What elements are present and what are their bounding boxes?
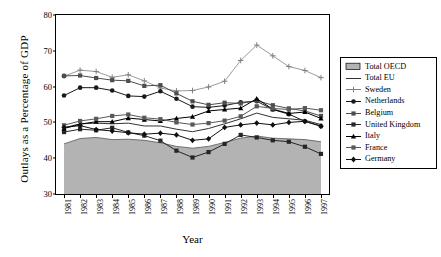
y-axis-tick-mark [53,86,56,87]
legend-marker-icon [345,142,362,153]
legend-marker-icon [345,131,362,142]
legend-item-netherlands[interactable]: Netherlands [345,96,433,108]
x-axis-tick-label: 1981 [63,199,72,215]
x-axis-tick-mark [273,194,274,198]
x-axis-tick-label: 1990 [208,199,217,215]
x-axis-tick-label: 1992 [240,199,249,215]
plot-svg [56,15,329,194]
x-axis-tick-mark [289,194,290,198]
x-axis-title: Year [55,233,330,245]
x-axis-tick-mark [209,194,210,198]
series-belgium [62,73,323,118]
legend-label: Belgium [365,109,393,117]
chart-legend: Total OECDTotal EUSwedenNetherlandsBelgi… [340,57,437,169]
x-axis-tick-label: 1997 [320,199,329,215]
legend-item-total-oecd[interactable]: Total OECD [345,61,433,73]
legend-label: Netherlands [365,97,405,105]
y-axis-tick-mark [53,50,56,51]
x-axis-tick-label: 1988 [175,199,184,215]
legend-item-sweden[interactable]: Sweden [345,84,433,96]
legend-marker-icon [345,96,362,107]
x-axis-tick-mark [193,194,194,198]
legend-marker-icon [345,61,362,72]
x-axis-tick-label: 1989 [192,199,201,215]
legend-label: Sweden [365,86,391,94]
x-axis-tick-mark [160,194,161,198]
legend-label: Italy [365,132,380,140]
legend-item-belgium[interactable]: Belgium [345,107,433,119]
plot-area: 3040506070801981198219831984198519861987… [55,14,330,195]
x-axis-tick-mark [321,194,322,198]
x-axis-tick-mark [241,194,242,198]
legend-marker-icon [345,84,362,95]
legend-label: Germany [365,155,395,163]
legend-label: Total EU [365,74,395,82]
chart-container: Outlays as a Percentage of GDP 304050607… [0,0,441,257]
x-axis-tick-mark [144,194,145,198]
x-axis-tick-mark [64,194,65,198]
legend-marker-icon [345,119,362,130]
x-axis-tick-label: 1994 [272,199,281,215]
y-axis-tick-mark [53,15,56,16]
legend-item-total-eu[interactable]: Total EU [345,73,433,85]
x-axis-tick-mark [128,194,129,198]
legend-marker-icon [345,108,362,119]
x-axis-tick-mark [305,194,306,198]
y-axis-tick-mark [53,122,56,123]
x-axis-tick-mark [176,194,177,198]
legend-label: United Kingdom [365,121,420,129]
x-axis-tick-mark [225,194,226,198]
x-axis-tick-label: 1983 [95,199,104,215]
x-axis-tick-label: 1991 [224,199,233,215]
x-axis-tick-label: 1985 [127,199,136,215]
series-sweden [61,42,324,93]
x-axis-tick-label: 1987 [159,199,168,215]
legend-item-italy[interactable]: Italy [345,131,433,143]
x-axis-tick-mark [112,194,113,198]
x-axis-tick-mark [80,194,81,198]
legend-marker-icon [345,73,362,84]
y-axis-tick-mark [53,194,56,195]
legend-label: Total OECD [365,63,406,71]
series-area-total-oecd [64,136,321,194]
x-axis-tick-label: 1993 [256,199,265,215]
y-axis-tick-mark [53,158,56,159]
x-axis-tick-label: 1984 [111,199,120,215]
x-axis-tick-label: 1996 [304,199,313,215]
x-axis-tick-label: 1982 [79,199,88,215]
legend-item-germany[interactable]: Germany [345,154,433,166]
x-axis-tick-mark [257,194,258,198]
legend-item-france[interactable]: France [345,142,433,154]
x-axis-tick-label: 1995 [288,199,297,215]
y-axis-title: Outlays as a Percentage of GDP [18,9,30,209]
legend-item-united-kingdom[interactable]: United Kingdom [345,119,433,131]
x-axis-tick-label: 1986 [143,199,152,215]
x-axis-tick-mark [96,194,97,198]
legend-label: France [365,144,387,152]
legend-marker-icon [345,154,362,165]
